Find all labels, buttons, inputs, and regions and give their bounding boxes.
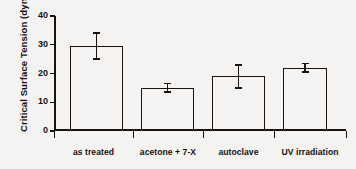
error-bar xyxy=(96,33,98,59)
plot-area xyxy=(54,16,346,131)
y-axis-tick xyxy=(50,73,55,74)
x-axis-category-tick xyxy=(133,131,134,138)
bar-chart-figure: Critical Surface Tension (dynes/cm2) 010… xyxy=(0,0,356,169)
x-axis-category-label: UV irradiation xyxy=(274,147,346,157)
error-bar-cap-top xyxy=(164,83,171,85)
x-axis-category-tick xyxy=(346,131,347,138)
y-axis-tick-label: 30 xyxy=(30,40,48,49)
error-bar-cap-bottom xyxy=(302,71,309,73)
x-axis-category-label: autoclave xyxy=(203,147,274,157)
error-bar-cap-bottom xyxy=(235,87,242,89)
x-axis-category-label: as treated xyxy=(54,147,133,157)
error-bar-cap-bottom xyxy=(164,91,171,93)
y-axis-tick-label: 0 xyxy=(30,126,48,135)
bar xyxy=(141,88,194,131)
x-axis-category-label: acetone + 7-X xyxy=(133,147,203,157)
y-axis-tick-label: 10 xyxy=(30,97,48,106)
y-axis-tick xyxy=(50,44,55,45)
y-axis-tick xyxy=(50,102,55,103)
error-bar-cap-top xyxy=(235,64,242,66)
error-bar-cap-top xyxy=(93,32,100,34)
x-axis-category-tick xyxy=(54,131,55,138)
y-axis-tick-label: 40 xyxy=(30,11,48,20)
y-axis-tick-label: 20 xyxy=(30,69,48,78)
x-axis-category-tick xyxy=(274,131,275,138)
x-axis-category-tick xyxy=(203,131,204,138)
bar xyxy=(283,68,327,131)
y-axis-tick xyxy=(50,15,55,16)
error-bar-cap-bottom xyxy=(93,58,100,60)
y-axis-tick-labels: 010203040 xyxy=(16,0,48,169)
error-bar xyxy=(238,65,240,88)
error-bar-cap-top xyxy=(302,63,309,65)
